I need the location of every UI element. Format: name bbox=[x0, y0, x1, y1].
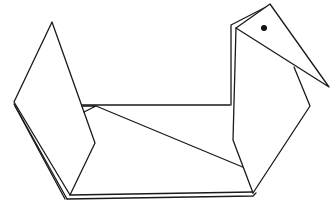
body-panel bbox=[67, 105, 256, 199]
origami-duck-drawing bbox=[0, 0, 334, 210]
tail-panel bbox=[14, 22, 95, 199]
eye-icon bbox=[261, 25, 267, 31]
origami-duck-figure bbox=[0, 0, 334, 210]
